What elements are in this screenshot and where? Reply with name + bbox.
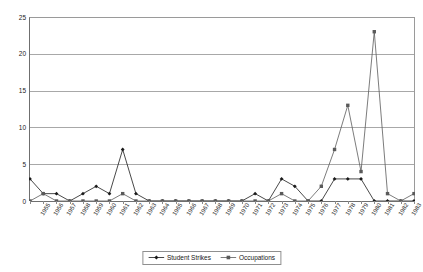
square-marker-icon (42, 192, 45, 195)
x-axis-tick-label: 1982 (397, 202, 409, 217)
diamond-marker-icon (280, 177, 284, 181)
x-axis-tick-label: 1961 (119, 202, 131, 217)
x-axis-tick-label: 1977 (331, 202, 343, 217)
x-axis-labels: 1955195619571958195919601961196219631964… (29, 202, 415, 248)
diamond-marker-icon (346, 177, 350, 181)
square-marker-icon (320, 185, 323, 188)
legend-item-label: Student Strikes (167, 253, 211, 262)
square-marker-icon (359, 170, 362, 173)
diamond-marker-icon (55, 192, 59, 196)
x-axis-tick-label: 1957 (66, 202, 78, 217)
x-axis-tick-label: 1965 (172, 202, 184, 217)
square-marker-icon (373, 30, 376, 33)
x-axis-tick-label: 1975 (304, 202, 316, 217)
series-layer (29, 17, 415, 201)
y-axis-tick-label: 25 (4, 14, 26, 21)
square-marker-icon (280, 192, 283, 195)
diamond-marker-icon (148, 254, 164, 261)
diamond-marker-icon (94, 184, 98, 188)
y-axis-tick-label: 20 (4, 50, 26, 57)
x-axis-tick-label: 1971 (251, 202, 263, 217)
diamond-marker-icon (359, 177, 363, 181)
x-axis-tick-label: 1968 (211, 202, 223, 217)
x-axis-tick-label: 1983 (410, 202, 422, 217)
square-marker-icon (121, 192, 124, 195)
line-chart: 0510152025 19551956195719581959196019611… (0, 0, 423, 272)
legend-item-occupations[interactable]: Occupations (220, 253, 275, 262)
legend-item-student-strikes[interactable]: Student Strikes (148, 253, 211, 262)
series-line (30, 32, 414, 201)
diamond-marker-icon (121, 148, 125, 152)
x-axis-tick-label: 1979 (357, 202, 369, 217)
legend-item-label: Occupations (239, 253, 275, 262)
x-axis-tick-label: 1972 (264, 202, 276, 217)
y-axis-tick-label: 5 (4, 161, 26, 168)
x-axis-tick-label: 1974 (291, 202, 303, 217)
x-axis-tick-label: 1958 (79, 202, 91, 217)
x-axis-tick-label: 1980 (370, 202, 382, 217)
x-axis-tick-label: 1963 (145, 202, 157, 217)
y-axis-tick-label: 10 (4, 124, 26, 131)
series-line (30, 149, 414, 201)
x-axis-tick-label: 1955 (39, 202, 51, 217)
diamond-marker-icon (81, 192, 85, 196)
x-axis-tick-label: 1978 (344, 202, 356, 217)
x-axis-tick-label: 1964 (158, 202, 170, 217)
x-axis-tick-label: 1970 (238, 202, 250, 217)
x-axis-tick-label: 1960 (105, 202, 117, 217)
chart-legend: Student StrikesOccupations (142, 251, 281, 265)
x-axis-tick-label: 1966 (185, 202, 197, 217)
diamond-marker-icon (134, 192, 138, 196)
square-marker-icon (220, 254, 236, 261)
diamond-marker-icon (333, 177, 337, 181)
diamond-marker-icon (253, 192, 257, 196)
x-axis-tick-label: 1967 (198, 202, 210, 217)
x-axis-tick-label: 1976 (317, 202, 329, 217)
x-axis-tick-label: 1959 (92, 202, 104, 217)
square-marker-icon (386, 192, 389, 195)
y-axis-tick-label: 0 (4, 198, 26, 205)
x-axis-tick-label: 1973 (278, 202, 290, 217)
square-marker-icon (346, 104, 349, 107)
x-axis-tick-label: 1981 (384, 202, 396, 217)
y-axis-tick-label: 15 (4, 87, 26, 94)
x-axis-tick-label: 1969 (225, 202, 237, 217)
diamond-marker-icon (108, 192, 112, 196)
square-marker-icon (333, 148, 336, 151)
series-occupations (29, 30, 415, 201)
series-student-strikes (29, 148, 415, 201)
x-axis-tick-label: 1956 (53, 202, 65, 217)
x-axis-tick-label: 1962 (132, 202, 144, 217)
square-marker-icon (412, 192, 415, 195)
